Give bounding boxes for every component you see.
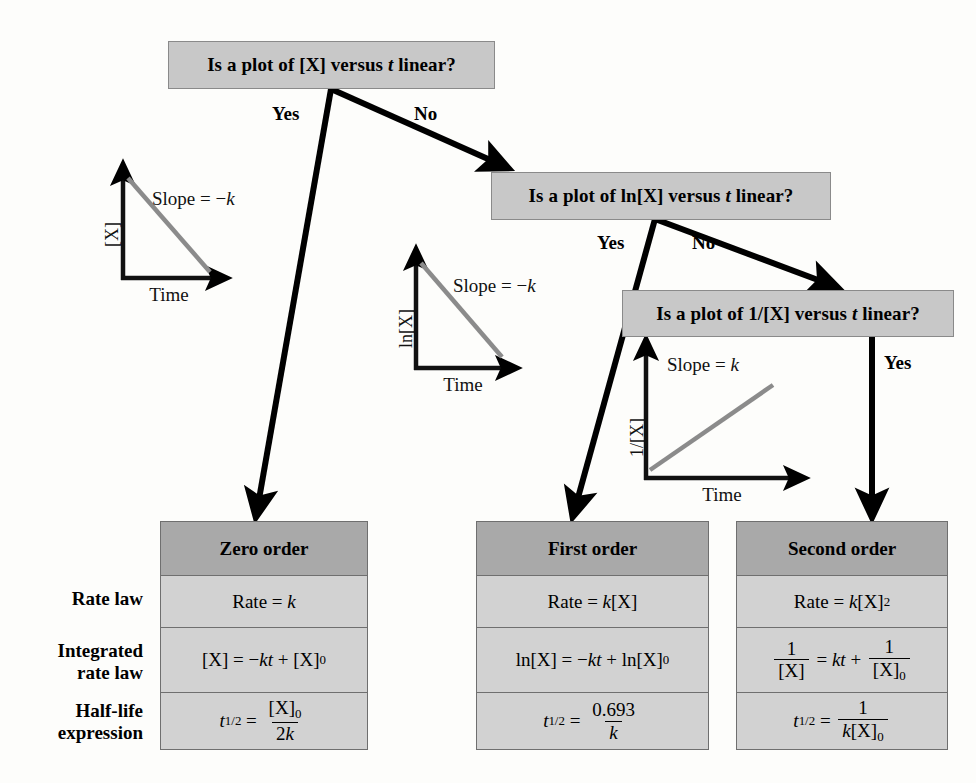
flowchart-canvas: Is a plot of [X] versus t linear? Is a p… [0, 0, 976, 783]
result-table-first-order: First order Rate = k[X] ln[X] = −kt + ln… [476, 521, 709, 750]
question-box-1-label: Is a plot of [X] versus t linear? [207, 54, 456, 76]
plot-zero-order-xlabel: Time [129, 284, 209, 306]
question-box-3-label: Is a plot of 1/[X] versus t linear? [656, 303, 920, 325]
result-half-life-second-order: t1/2 = 1 k[X]0 [737, 693, 947, 749]
arrow-q1-no [331, 89, 497, 163]
result-header-second-order: Second order [737, 522, 947, 576]
plot-first-order-xlabel: Time [423, 374, 503, 396]
row-label-integrated-line1: Integrated [58, 640, 143, 661]
plot-second-order-xlabel: Time [682, 484, 762, 506]
arrow-q2-no [655, 219, 826, 283]
branch-label-q2-yes: Yes [597, 232, 624, 254]
result-table-second-order: Second order Rate = k[X]2 1[X] = kt + 1[… [736, 521, 948, 750]
arrow-q1-yes [258, 89, 331, 505]
result-rate-law-first-order: Rate = k[X] [477, 576, 708, 628]
branch-label-q3-yes: Yes [884, 352, 911, 374]
plot-first-order-ylabel: ln[X] [396, 309, 417, 348]
row-label-integrated-line2: rate law [77, 662, 143, 683]
question-box-1[interactable]: Is a plot of [X] versus t linear? [168, 41, 495, 89]
plot-zero-order-ylabel: [X] [102, 222, 123, 247]
plot-first-order-slope-label: Slope = −k [453, 275, 536, 297]
row-label-rate-law-line1: Rate law [72, 588, 143, 609]
question-box-3[interactable]: Is a plot of 1/[X] versus t linear? [622, 290, 954, 337]
result-header-zero-order: Zero order [161, 522, 367, 576]
result-integrated-zero-order: [X] = −kt + [X]0 [161, 628, 367, 693]
result-header-first-order: First order [477, 522, 708, 576]
branch-label-q2-no: No [692, 232, 715, 254]
result-integrated-second-order: 1[X] = kt + 1[X]0 [737, 628, 947, 693]
arrow-q2-yes [576, 219, 655, 505]
row-label-half-life-line2: expression [58, 722, 143, 743]
result-rate-law-second-order: Rate = k[X]2 [737, 576, 947, 628]
plot-second-order-slope-label: Slope = k [667, 354, 739, 376]
result-rate-law-zero-order: Rate = k [161, 576, 367, 628]
result-half-life-zero-order: t1/2 = [X]0 2k [161, 693, 367, 749]
row-label-rate-law: Rate law [0, 588, 143, 610]
result-half-life-first-order: t1/2 = 0.693 k [477, 693, 708, 749]
question-box-2[interactable]: Is a plot of ln[X] versus t linear? [491, 172, 831, 220]
row-label-half-life-line1: Half-life [75, 700, 143, 721]
result-integrated-first-order: ln[X] = −kt + ln[X]0 [477, 628, 708, 693]
branch-label-q1-yes: Yes [272, 103, 299, 125]
row-label-half-life: Half-life expression [0, 700, 143, 745]
result-table-zero-order: Zero order Rate = k [X] = −kt + [X]0 t1/… [160, 521, 368, 750]
branch-label-q1-no: No [414, 103, 437, 125]
plot-zero-order-slope-label: Slope = −k [152, 188, 235, 210]
row-label-integrated-rate-law: Integrated rate law [0, 640, 143, 685]
question-box-2-label: Is a plot of ln[X] versus t linear? [529, 185, 794, 207]
plot-second-order-ylabel: 1/[X] [627, 418, 648, 457]
